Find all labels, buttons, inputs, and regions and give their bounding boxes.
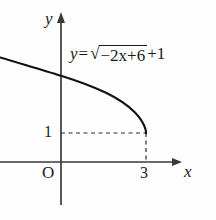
tick-label-y-1: 1 [44,124,52,140]
equation-lhs: y [70,44,78,64]
equation-annotation: y = √ −2x+6 +1 [70,44,165,66]
tick-label-x-3: 3 [140,165,148,181]
radicand: −2x+6 [99,45,147,66]
radical-sign-icon: √ [90,44,99,66]
y-axis [57,12,65,205]
x-axis-arrow-icon [172,158,182,166]
y-axis-label: y [45,10,53,27]
y-axis-arrow-icon [57,12,65,23]
radical-expression: √ −2x+6 [90,44,147,66]
guide-lines [61,133,146,162]
x-axis-label: x [184,163,192,180]
equation-equals: = [79,44,89,64]
origin-label: O [42,164,54,181]
graph-canvas [0,0,216,220]
math-figure: y x O 1 3 y = √ −2x+6 +1 [0,0,216,220]
x-axis [0,158,182,166]
function-curve [0,58,146,134]
equation-outside-term: +1 [147,44,165,64]
